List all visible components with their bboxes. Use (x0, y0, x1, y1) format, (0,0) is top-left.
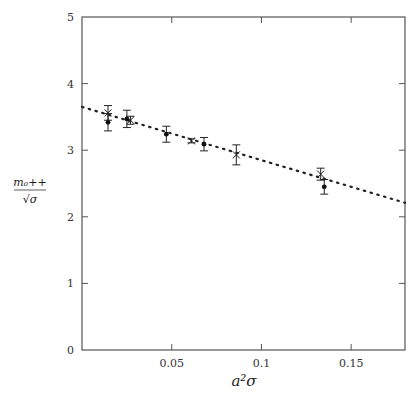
data-point-cross (187, 137, 195, 144)
data-point-cross (232, 145, 240, 165)
y-tick-label: 4 (67, 78, 74, 91)
chart: 012345 0.050.10.15 a²σ m₀++ √σ (0, 0, 416, 405)
y-tick-label: 3 (67, 144, 74, 157)
y-tick-label: 1 (67, 277, 74, 290)
y-tick-label: 2 (67, 211, 74, 224)
y-tick-label: 5 (67, 11, 74, 24)
x-tick-label: 0.05 (159, 357, 184, 370)
data-series (104, 106, 328, 195)
y-axis-ticks: 012345 (67, 11, 405, 357)
y-axis-label: m₀++ √σ (13, 176, 46, 206)
y-label-numerator: m₀++ (13, 176, 46, 189)
data-point-dot (200, 138, 208, 151)
x-axis-ticks: 0.050.10.15 (159, 17, 363, 370)
x-tick-label: 0.15 (339, 357, 364, 370)
y-label-denominator: √σ (23, 193, 38, 206)
plot-frame (82, 17, 405, 350)
data-point-dot (320, 180, 328, 195)
y-tick-label: 0 (67, 344, 74, 357)
data-point-dot (162, 126, 170, 142)
data-point-cross (104, 106, 112, 121)
x-axis-label: a²σ (231, 372, 257, 390)
x-tick-label: 0.1 (253, 357, 271, 370)
